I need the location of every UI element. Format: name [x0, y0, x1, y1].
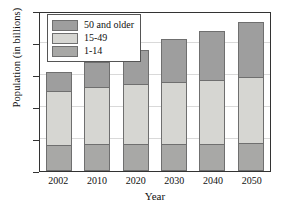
legend-swatch — [52, 33, 78, 44]
bar-segment[interactable] — [199, 31, 225, 81]
bar-2040[interactable] — [199, 13, 225, 171]
legend-label: 1-14 — [84, 46, 102, 56]
bar-segment[interactable] — [123, 144, 149, 171]
bar-2050[interactable] — [238, 13, 264, 171]
y-axis-label: Population (in billions) — [11, 0, 22, 128]
bar-segment[interactable] — [238, 77, 264, 143]
legend-swatch — [52, 46, 78, 57]
bar-segment[interactable] — [238, 22, 264, 77]
bar-segment[interactable] — [123, 84, 149, 144]
legend-item: 50 and older — [52, 19, 134, 31]
legend-item: 1-14 — [52, 45, 134, 57]
y-axis-tick-mark — [33, 172, 39, 173]
bar-segment[interactable] — [161, 144, 187, 171]
bar-segment[interactable] — [46, 91, 72, 145]
bar-segment[interactable] — [199, 144, 225, 171]
bar-segment[interactable] — [161, 82, 187, 143]
bar-segment[interactable] — [161, 39, 187, 83]
bar-segment[interactable] — [84, 62, 110, 87]
legend-label: 50 and older — [84, 20, 134, 30]
x-axis-tick-label: 2010 — [78, 175, 117, 186]
x-axis-tick-label: 2050 — [232, 175, 271, 186]
bar-2030[interactable] — [161, 13, 187, 171]
x-axis-tick-label: 2030 — [155, 175, 194, 186]
x-axis-tick-labels: 200220102020203020402050 — [39, 175, 271, 186]
legend-swatch — [52, 20, 78, 31]
x-axis-label: Year — [39, 190, 271, 202]
legend-label: 15-49 — [84, 33, 107, 43]
bar-segment[interactable] — [238, 143, 264, 171]
bar-segment[interactable] — [84, 87, 110, 144]
bar-segment[interactable] — [199, 80, 225, 143]
stacked-bar-chart: Population (in billions) 0.01.02.03.04.0… — [0, 0, 283, 207]
x-axis-tick-label: 2002 — [39, 175, 78, 186]
bar-segment[interactable] — [46, 145, 72, 171]
bar-segment[interactable] — [84, 144, 110, 171]
x-axis-tick-label: 2020 — [116, 175, 155, 186]
bar-segment[interactable] — [46, 72, 72, 91]
x-axis-tick-label: 2040 — [194, 175, 233, 186]
legend: 50 and older15-491-14 — [47, 14, 141, 62]
legend-item: 15-49 — [52, 32, 134, 44]
